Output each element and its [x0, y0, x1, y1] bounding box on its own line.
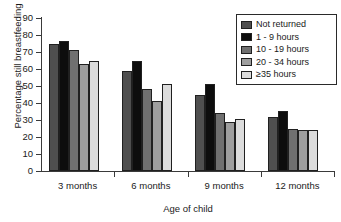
legend-item: ≥35 hours	[241, 69, 332, 81]
y-axis-tick	[36, 171, 41, 172]
bar	[308, 130, 318, 171]
x-axis-tick	[334, 172, 335, 177]
x-axis-title: Age of child	[41, 203, 335, 214]
bar-chart: Percentage still breastfeeding 010203040…	[0, 0, 341, 222]
bar	[298, 130, 308, 171]
x-axis-tick	[261, 172, 262, 177]
legend-item: 20 - 34 hours	[241, 56, 332, 68]
bar	[278, 111, 288, 171]
y-axis-tick-label: 30	[0, 115, 33, 125]
y-axis-tick-label: 70	[0, 47, 33, 57]
bar	[59, 41, 69, 171]
bar	[288, 129, 298, 171]
bar	[162, 84, 172, 171]
bar	[89, 61, 99, 172]
bar	[268, 117, 278, 171]
legend-swatch-icon	[241, 46, 252, 54]
bar	[132, 61, 142, 171]
x-axis-tick	[188, 172, 189, 177]
y-axis-tick-label: 40	[0, 98, 33, 108]
x-axis-category-label: 6 months	[114, 181, 187, 191]
bar	[152, 101, 162, 171]
bar	[225, 122, 235, 171]
y-axis-tick-label: 20	[0, 132, 33, 142]
bar	[142, 89, 152, 171]
legend-item-label: ≥35 hours	[256, 70, 296, 79]
bar	[235, 119, 245, 171]
x-axis-category-label: 3 months	[41, 181, 114, 191]
bar	[122, 71, 132, 171]
y-axis-tick-label: 80	[0, 30, 33, 40]
y-axis-tick-label: 10	[0, 149, 33, 159]
bar	[195, 95, 205, 172]
legend-swatch-icon	[241, 58, 252, 66]
x-axis-category-label: 9 months	[188, 181, 261, 191]
bar	[79, 64, 89, 171]
legend: Not returned1 - 9 hours10 - 19 hours20 -…	[236, 14, 337, 85]
legend-item: 10 - 19 hours	[241, 44, 332, 56]
legend-item: Not returned	[241, 19, 332, 31]
bar	[215, 113, 225, 171]
bar	[69, 50, 79, 171]
y-axis-tick-label: 90	[0, 13, 33, 23]
y-axis-tick-label: 60	[0, 64, 33, 74]
legend-item-label: 1 - 9 hours	[256, 33, 299, 42]
y-axis-tick-label: 50	[0, 81, 33, 91]
legend-item: 1 - 9 hours	[241, 31, 332, 43]
legend-item-label: 20 - 34 hours	[256, 58, 309, 67]
legend-item-label: 10 - 19 hours	[256, 45, 309, 54]
legend-item-label: Not returned	[256, 20, 306, 29]
bar	[49, 44, 59, 171]
y-axis-tick-label: 0	[0, 166, 33, 176]
legend-swatch-icon	[241, 71, 252, 79]
legend-swatch-icon	[241, 33, 252, 41]
legend-swatch-icon	[241, 21, 252, 29]
x-axis-tick	[114, 172, 115, 177]
x-axis-category-label: 12 months	[261, 181, 334, 191]
bar	[205, 84, 215, 171]
